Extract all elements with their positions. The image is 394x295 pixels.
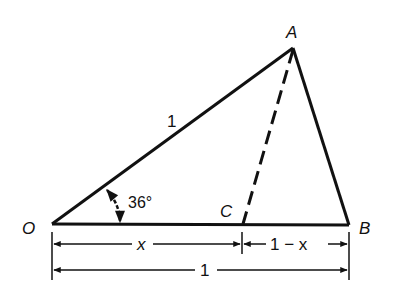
label-seg-1mx: 1 − x: [270, 235, 308, 254]
label-seg-OB: 1: [200, 261, 209, 280]
side-OA: [52, 48, 293, 224]
label-angle: 36°: [128, 194, 152, 211]
side-OB: [52, 224, 349, 225]
triangle-diagram: A O B C 1 36° x 1 − x 1: [0, 0, 394, 295]
angle-arc: [107, 190, 120, 222]
side-AB: [293, 48, 349, 225]
segment-AC-dashed: [243, 50, 293, 224]
label-B: B: [359, 219, 370, 238]
label-seg-x: x: [136, 235, 146, 254]
diagram-canvas: A O B C 1 36° x 1 − x 1: [0, 0, 394, 295]
label-C: C: [220, 202, 233, 221]
label-side-OA: 1: [167, 112, 176, 131]
label-O: O: [22, 219, 35, 238]
label-A: A: [285, 23, 297, 42]
